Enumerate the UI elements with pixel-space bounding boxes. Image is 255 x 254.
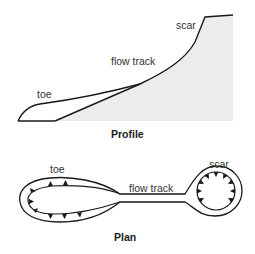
plan-label-toe: toe [50,163,65,175]
profile-ground-fill [55,15,233,121]
plan-label-scar: scar [209,158,229,170]
scar-tooth [214,172,219,177]
plan-label-flow-track: flow track [129,182,174,194]
profile-view: scar flow track toe Profile [18,15,233,140]
plan-toe-inner-line [28,186,120,214]
scar-tooth [197,189,202,194]
profile-label-scar: scar [176,19,196,31]
plan-view: toe flow track scar Plan [20,158,242,243]
plan-title: Plan [114,231,136,243]
profile-label-toe: toe [37,88,52,100]
profile-title: Profile [111,128,144,140]
scar-tooth [230,189,235,194]
plan-scar-inner-circle [197,172,235,210]
landslide-diagram: scar flow track toe Profile toe flow tra… [0,0,255,254]
profile-label-flow-track: flow track [111,55,156,67]
plan-scar-teeth [197,172,235,203]
